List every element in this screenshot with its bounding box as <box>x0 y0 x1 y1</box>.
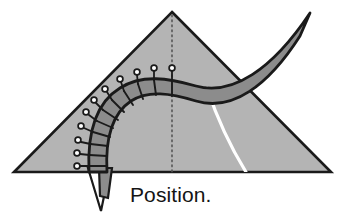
marker-stem <box>137 75 138 84</box>
ribbon-marker-circle <box>91 97 97 103</box>
flap-group <box>88 168 112 211</box>
ribbon-marker-circle <box>117 76 123 82</box>
ribbon-marker-circle <box>74 163 80 169</box>
ribbon-marker-circle <box>134 69 140 75</box>
ribbon-marker-circle <box>151 65 157 71</box>
ribbon-marker-circle <box>75 137 81 143</box>
ribbon-tick <box>90 155 108 156</box>
position-diagram <box>0 0 353 216</box>
ribbon-marker-circle <box>78 123 84 129</box>
ribbon-marker-circle <box>102 86 108 92</box>
ribbon-marker-circle <box>74 150 80 156</box>
figure-root: Position. <box>0 0 353 216</box>
marker-stem <box>80 154 90 155</box>
ribbon-marker-circle <box>169 65 175 71</box>
ribbon-marker-circle <box>83 109 89 115</box>
